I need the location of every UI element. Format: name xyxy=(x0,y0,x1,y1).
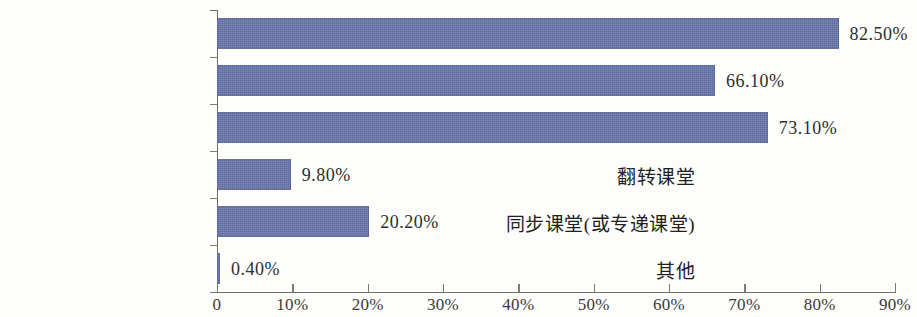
bar xyxy=(217,159,291,190)
x-axis-tick-label: 70% xyxy=(728,295,760,315)
bar-value-label: 0.40% xyxy=(231,258,280,279)
bar-row: 73.10% xyxy=(217,112,895,143)
bar-value-label: 9.80% xyxy=(302,164,351,185)
bar-row: 20.20% xyxy=(217,206,895,237)
bar xyxy=(217,18,839,49)
x-axis-tick-label: 30% xyxy=(427,295,459,315)
x-axis-tick-label: 60% xyxy=(653,295,685,315)
bar-value-label: 66.10% xyxy=(726,70,785,91)
x-axis-tick-label: 40% xyxy=(502,295,534,315)
bar-value-label: 20.20% xyxy=(380,211,439,232)
bar xyxy=(217,112,768,143)
bar-row: 82.50% xyxy=(217,18,895,49)
x-axis-tick xyxy=(820,284,821,292)
x-axis-tick xyxy=(518,284,519,292)
y-axis-tick xyxy=(210,292,218,293)
bar xyxy=(217,65,715,96)
x-axis-tick xyxy=(669,284,670,292)
bar-row: 66.10% xyxy=(217,65,895,96)
x-axis-tick xyxy=(443,284,444,292)
x-axis-tick-label: 80% xyxy=(804,295,836,315)
bar-chart-figure: 课堂教学线上线下混合式教学线上教学翻转课堂同步课堂(或专递课堂)其他 82.50… xyxy=(0,0,917,317)
x-axis-tick-label: 50% xyxy=(578,295,610,315)
x-axis-tick xyxy=(744,284,745,292)
x-axis-tick xyxy=(217,283,218,292)
x-axis-tick xyxy=(368,284,369,292)
bar xyxy=(217,206,369,237)
x-axis-tick-label: 20% xyxy=(352,295,384,315)
x-axis-tick-label: 90% xyxy=(879,295,911,315)
x-axis-tick-label: 0 xyxy=(213,295,222,315)
x-axis-line xyxy=(217,292,896,293)
bar-row: 0.40% xyxy=(217,253,895,284)
x-axis-tick xyxy=(292,284,293,292)
x-axis-tick xyxy=(895,283,896,292)
bar-row: 9.80% xyxy=(217,159,895,190)
bar-value-label: 82.50% xyxy=(850,23,909,44)
bar-value-label: 73.10% xyxy=(779,117,838,138)
bar xyxy=(217,253,220,284)
x-axis-tick-label: 10% xyxy=(276,295,308,315)
x-axis-tick xyxy=(594,284,595,292)
bars-group: 82.50%66.10%73.10%9.80%20.20%0.40% xyxy=(217,10,895,292)
